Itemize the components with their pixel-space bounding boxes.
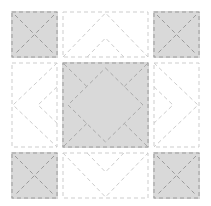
patch-edge-top — [62, 11, 149, 58]
quilt-block-svg — [0, 0, 211, 206]
patch-fill-edge-top — [62, 11, 149, 58]
patch-corner-bottom-right — [153, 152, 200, 199]
quilt-block-diagram — [0, 0, 211, 206]
patch-corner-top-right — [153, 11, 200, 58]
patch-corner-bottom-left — [11, 152, 58, 199]
patch-fill-edge-bottom — [62, 152, 149, 199]
patch-center-square — [62, 62, 149, 148]
patch-edge-right — [153, 62, 200, 148]
patch-edge-bottom — [62, 152, 149, 199]
patch-corner-top-left — [11, 11, 58, 58]
patch-fill-edge-right — [153, 62, 200, 148]
patch-fill-edge-left — [11, 62, 58, 148]
patch-edge-left — [11, 62, 58, 148]
